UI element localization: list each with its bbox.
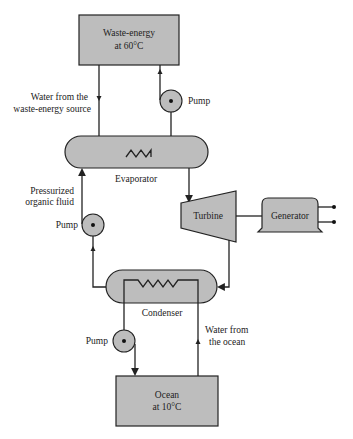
- ocean-box: Ocean at 10°C: [116, 376, 218, 426]
- pump-top: Pump: [160, 90, 210, 112]
- ocean-water-line: [196, 303, 201, 376]
- generator: Generator: [258, 198, 336, 232]
- evaporator-label: Evaporator: [115, 174, 158, 184]
- waste-energy-label-2: at 60°C: [115, 41, 144, 51]
- turbine-to-condenser-line: [221, 240, 229, 287]
- generator-terminal-1: [332, 205, 336, 209]
- organic-fluid-label-2: organic fluid: [25, 197, 74, 207]
- evaporator: Evaporator: [65, 136, 208, 184]
- condenser-label: Condenser: [142, 308, 183, 318]
- waste-energy-label-1: Waste-energy: [103, 28, 155, 38]
- waste-energy-box: Waste-energy at 60°C: [79, 15, 179, 65]
- generator-terminal-2: [332, 220, 336, 224]
- pump-middle-label: Pump: [56, 220, 78, 230]
- turbine-label: Turbine: [193, 211, 223, 221]
- waste-water-label-1: Water from the: [31, 92, 88, 102]
- pump-middle: Pump: [56, 214, 104, 236]
- otec-diagram: Waste-energy at 60°C Water from the wast…: [0, 0, 353, 439]
- pump-top-label: Pump: [188, 96, 210, 106]
- ocean-water-label-1: Water from: [205, 325, 249, 335]
- waste-water-label-2: waste-energy source: [13, 104, 91, 114]
- pump-bottom-label: Pump: [86, 336, 108, 346]
- ocean-label-2: at 10°C: [153, 402, 182, 412]
- organic-fluid-label-1: Pressurized: [30, 186, 74, 196]
- condenser: Condenser: [106, 270, 217, 318]
- generator-label: Generator: [271, 211, 310, 221]
- ocean-water-label-2: the ocean: [209, 337, 245, 347]
- ocean-label-1: Ocean: [155, 390, 180, 400]
- pump-bottom: Pump: [86, 330, 135, 352]
